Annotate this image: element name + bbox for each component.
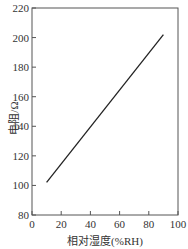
svg-text:40: 40: [85, 218, 97, 230]
svg-text:180: 180: [13, 61, 30, 73]
svg-text:60: 60: [114, 218, 126, 230]
svg-text:100: 100: [170, 218, 187, 230]
x-axis-ticks: 020406080100: [29, 211, 187, 230]
y-axis-label: 电阻/Ω: [5, 93, 21, 143]
svg-text:20: 20: [56, 218, 68, 230]
svg-text:200: 200: [13, 32, 30, 44]
svg-text:80: 80: [143, 218, 155, 230]
plot-frame: [32, 8, 178, 215]
svg-text:100: 100: [13, 179, 30, 191]
svg-text:80: 80: [18, 209, 30, 221]
x-axis-label: 相对湿度(%RH): [32, 232, 178, 248]
svg-text:120: 120: [13, 150, 30, 162]
svg-text:0: 0: [29, 218, 35, 230]
svg-text:220: 220: [13, 2, 30, 14]
resistance-line: [47, 35, 164, 183]
chart-svg: 80100120140160180200220 020406080100: [0, 0, 188, 249]
